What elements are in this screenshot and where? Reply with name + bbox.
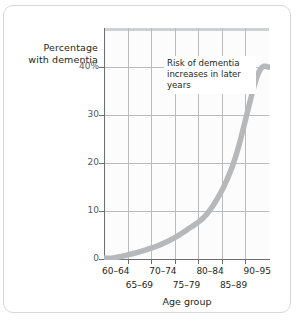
y-axis-tick-label: 0: [57, 253, 99, 263]
x-axis-tick-label: 90–95: [243, 266, 270, 276]
y-tick-label-group: 010203040%: [54, 6, 99, 320]
y-axis-tick: [99, 67, 104, 68]
x-axis-title: Age group: [104, 296, 270, 307]
x-axis-tick: [175, 259, 176, 264]
gridline-vertical: [128, 28, 129, 259]
gridline-horizontal: [104, 115, 269, 116]
x-axis-tick: [245, 259, 246, 264]
y-axis-tick: [99, 259, 104, 260]
y-axis-tick: [99, 115, 104, 116]
y-axis-tick-label: 10: [57, 205, 99, 215]
gridline-vertical: [151, 28, 152, 259]
chart-card: Percentage with dementia 010203040% Risk…: [3, 5, 291, 313]
y-axis-tick-label: 20: [57, 157, 99, 167]
x-axis-tick: [198, 259, 199, 264]
annotation-callout: Risk of dementia increases in later year…: [164, 56, 256, 94]
y-axis-line: [104, 28, 105, 260]
x-axis-tick-label: 70–74: [149, 266, 176, 276]
x-axis-tick-label: 85–89: [220, 280, 247, 290]
x-axis-tick-label: 75–79: [173, 280, 200, 290]
y-axis-tick: [99, 163, 104, 164]
x-axis-tick: [128, 259, 129, 264]
y-axis-tick-label: 40%: [57, 61, 99, 71]
x-axis-tick-label: 65–69: [126, 280, 153, 290]
gridline-horizontal: [104, 211, 269, 212]
y-axis-tick-label: 30: [57, 109, 99, 119]
x-axis-tick: [151, 259, 152, 264]
x-axis-tick-label: 60–64: [102, 266, 129, 276]
x-axis-tick-label: 80–84: [196, 266, 223, 276]
y-axis-tick: [99, 211, 104, 212]
gridline-horizontal: [104, 163, 269, 164]
plot-top-band: [104, 28, 269, 31]
x-axis-tick: [222, 259, 223, 264]
